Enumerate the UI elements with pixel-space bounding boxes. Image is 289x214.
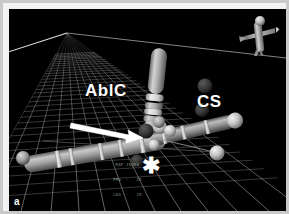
pointer-arrow xyxy=(70,123,143,143)
electrode-marker-5 xyxy=(16,151,30,165)
electrode-marker-4 xyxy=(149,140,160,151)
electrode-tip-sphere xyxy=(210,146,225,161)
body-orientation-icon[interactable] xyxy=(234,12,282,58)
screenshot-root: AblC CS ✱ a RAF 35@50 PMa - 25 LAO - 15 xyxy=(0,0,289,214)
panel-letter: a xyxy=(14,196,20,207)
image-frame: AblC CS ✱ a RAF 35@50 PMa - 25 LAO - 15 xyxy=(3,3,286,211)
readout-line-3: LAO - 15 xyxy=(113,192,142,197)
asterisk-marker: ✱ xyxy=(142,155,160,177)
readout-line-2: PMa - 25 xyxy=(113,177,142,182)
coronary-sinus-label: CS xyxy=(197,92,222,112)
ablation-catheter-label: AblC xyxy=(85,81,127,101)
electrode-marker-2 xyxy=(164,125,176,137)
electrode-marker-3 xyxy=(153,116,165,128)
lesion-tag-3 xyxy=(139,124,154,139)
map-viewport[interactable]: AblC CS ✱ a RAF 35@50 PMa - 25 LAO - 15 xyxy=(9,9,286,211)
orientation-figure-icon xyxy=(234,12,282,58)
readout-line-1: RAF 35@50 xyxy=(113,162,142,167)
system-readout: RAF 35@50 PMa - 25 LAO - 15 xyxy=(113,152,142,207)
